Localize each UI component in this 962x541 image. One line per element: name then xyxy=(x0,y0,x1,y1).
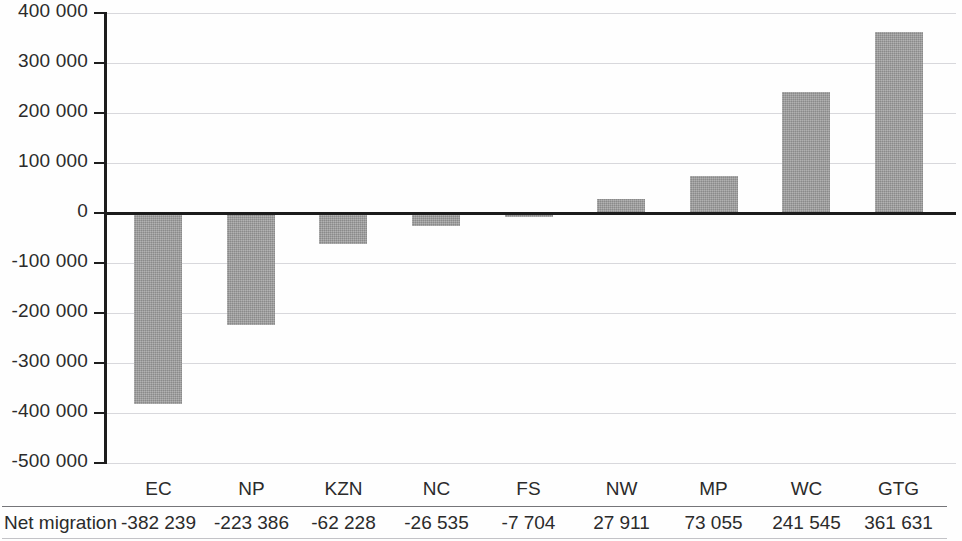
table-row-label: Net migration xyxy=(4,512,117,534)
x-axis-category-label-fs: FS xyxy=(482,478,575,500)
x-axis-category-label-ec: EC xyxy=(112,478,205,500)
y-axis-tick xyxy=(94,162,105,164)
y-axis-tick-label: -500 000 xyxy=(0,450,88,472)
data-table: Net migration -382 239-223 386-62 228-26… xyxy=(0,506,962,541)
y-axis-spine xyxy=(104,12,107,464)
gridline xyxy=(105,413,956,414)
bar-wc xyxy=(782,92,830,213)
table-cell-fs: -7 704 xyxy=(482,512,575,534)
y-axis-tick-label: 400 000 xyxy=(0,0,88,22)
table-rule-bottom xyxy=(2,538,947,539)
table-rule-top xyxy=(2,506,947,507)
bar-nw xyxy=(597,199,645,213)
bar-ec xyxy=(134,213,182,404)
table-cell-np: -223 386 xyxy=(205,512,298,534)
y-axis-tick xyxy=(94,212,105,214)
y-axis-tick-label: -100 000 xyxy=(0,250,88,272)
y-axis-tick-label: 300 000 xyxy=(0,50,88,72)
y-axis-tick xyxy=(94,312,105,314)
x-axis-category-label-kzn: KZN xyxy=(297,478,390,500)
gridline xyxy=(105,13,956,14)
gridline xyxy=(105,363,956,364)
y-axis-tick xyxy=(94,262,105,264)
y-axis-tick-label: 200 000 xyxy=(0,100,88,122)
bar-np xyxy=(227,213,275,325)
y-axis-tick-label: -400 000 xyxy=(0,400,88,422)
y-axis-tick xyxy=(94,362,105,364)
x-axis-category-label-mp: MP xyxy=(667,478,760,500)
bar-gtg xyxy=(875,32,923,213)
bar-mp xyxy=(690,176,738,213)
table-cell-ec: -382 239 xyxy=(112,512,205,534)
gridline xyxy=(105,63,956,64)
y-axis-tick-label: -300 000 xyxy=(0,350,88,372)
y-axis-tick xyxy=(94,62,105,64)
x-axis-category-label-np: NP xyxy=(205,478,298,500)
table-cell-kzn: -62 228 xyxy=(297,512,390,534)
x-axis-category-label-wc: WC xyxy=(760,478,853,500)
y-axis-tick xyxy=(94,12,105,14)
x-axis-category-label-gtg: GTG xyxy=(852,478,945,500)
y-axis-tick-label: 100 000 xyxy=(0,150,88,172)
gridline xyxy=(105,463,956,464)
table-cell-gtg: 361 631 xyxy=(852,512,945,534)
table-cell-wc: 241 545 xyxy=(760,512,853,534)
table-cell-mp: 73 055 xyxy=(667,512,760,534)
y-axis-tick xyxy=(94,112,105,114)
x-axis-category-label-nc: NC xyxy=(390,478,483,500)
x-axis-category-label-nw: NW xyxy=(575,478,668,500)
y-axis-tick-label: -200 000 xyxy=(0,300,88,322)
net-migration-bar-chart-figure: 400 000300 000200 000100 0000-100 000-20… xyxy=(0,0,962,541)
table-cell-nw: 27 911 xyxy=(575,512,668,534)
table-cell-nc: -26 535 xyxy=(390,512,483,534)
y-axis-tick xyxy=(94,462,105,464)
y-axis-tick-label: 0 xyxy=(0,200,88,222)
y-axis-tick xyxy=(94,412,105,414)
bar-kzn xyxy=(319,213,367,244)
zero-line xyxy=(105,212,956,215)
